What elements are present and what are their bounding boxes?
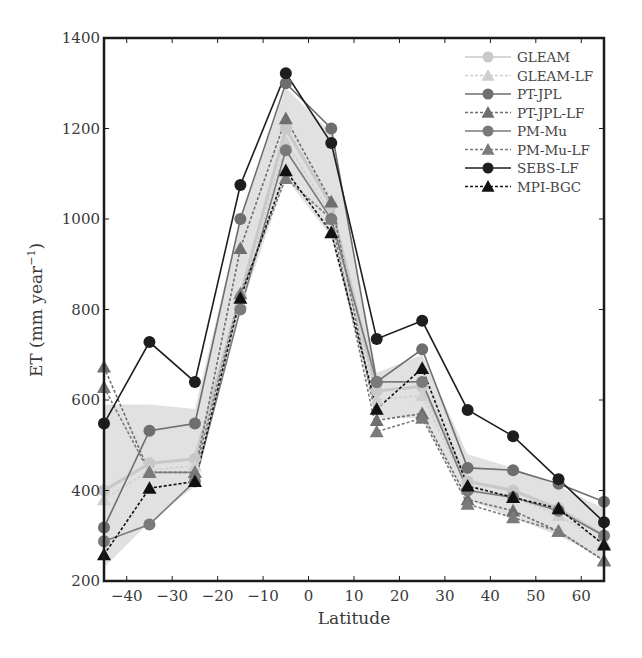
circle-marker-icon [483,52,494,63]
legend-label: MPI-BGC [517,179,581,195]
y-tick-label: 1000 [62,210,100,228]
legend-item-sebs-lf: SEBS-LF [465,160,579,176]
circle-marker-icon [325,137,337,149]
y-tick-label: 600 [71,391,100,409]
x-tick-label: 50 [526,587,545,605]
circle-marker-icon [234,213,246,225]
circle-marker-icon [189,376,201,388]
circle-marker-icon [325,123,337,135]
circle-marker-icon [507,430,519,442]
circle-marker-icon [462,404,474,416]
circle-marker-icon [483,163,494,174]
y-tick-label: 200 [71,572,100,590]
legend-label: GLEAM-LF [517,68,593,84]
legend: GLEAMGLEAM-LFPT-JPLPT-JPL-LFPM-MuPM-Mu-L… [465,49,593,195]
circle-marker-icon [189,418,201,430]
legend-label: PM-Mu [517,123,567,139]
legend-item-pm-mu: PM-Mu [465,123,567,139]
x-tick-label: 20 [390,587,409,605]
y-tick-label: 800 [71,301,100,319]
legend-item-pm-mu-lf: PM-Mu-LF [465,142,590,158]
circle-marker-icon [462,462,474,474]
legend-label: PT-JPL-LF [517,105,584,121]
legend-item-mpi-bgc: MPI-BGC [465,179,581,195]
x-tick-label: 40 [481,587,500,605]
x-tick-label: 10 [344,587,363,605]
legend-item-gleam: GLEAM [465,49,570,65]
legend-label: SEBS-LF [517,160,579,176]
circle-marker-icon [483,126,494,137]
y-tick-label: 1200 [62,120,100,138]
circle-marker-icon [371,376,383,388]
circle-marker-icon [416,343,428,355]
circle-marker-icon [507,464,519,476]
legend-item-gleam-lf: GLEAM-LF [465,68,593,84]
circle-marker-icon [483,89,494,100]
legend-label: GLEAM [517,49,570,65]
circle-marker-icon [416,376,428,388]
circle-marker-icon [234,304,246,316]
x-tick-label: 60 [572,587,591,605]
y-axis-title: ET (mm year−1) [25,243,46,377]
x-tick-label: −40 [111,587,143,605]
x-tick-label: 30 [435,587,454,605]
y-tick-label: 1400 [62,29,100,47]
x-tick-label: −10 [247,587,279,605]
et-latitude-chart: 200400600800100012001400 −40−30−20−10010… [0,0,642,658]
circle-marker-icon [143,518,155,530]
x-tick-label: 0 [304,587,314,605]
circle-marker-icon [371,333,383,345]
legend-label: PT-JPL [517,86,561,102]
legend-item-pt-jpl: PT-JPL [465,86,561,102]
circle-marker-icon [416,315,428,327]
circle-marker-icon [280,123,292,135]
legend-item-pt-jpl-lf: PT-JPL-LF [465,105,584,121]
circle-marker-icon [234,179,246,191]
circle-marker-icon [143,425,155,437]
x-tick-label: −30 [156,587,188,605]
x-axis-title: Latitude [318,608,390,628]
triangle-marker-icon [370,425,384,438]
circle-marker-icon [553,473,565,485]
circle-marker-icon [280,144,292,156]
legend-label: PM-Mu-LF [517,142,590,158]
x-tick-label: −20 [202,587,234,605]
circle-marker-icon [143,336,155,348]
circle-marker-icon [280,67,292,79]
y-tick-label: 400 [71,482,100,500]
